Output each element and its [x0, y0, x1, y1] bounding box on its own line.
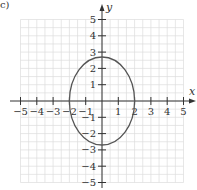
y-tick-label: −1 — [81, 112, 96, 123]
x-tick-label: −4 — [29, 106, 44, 117]
axes — [10, 4, 196, 188]
y-tick-label: −3 — [81, 144, 96, 155]
x-tick-label: 5 — [180, 106, 186, 117]
x-tick-label: −5 — [13, 106, 28, 117]
x-tick-label: 4 — [164, 106, 170, 117]
ellipse-graph: c) −5−4−3−2−11234554321−1−2−3−4−5 x y — [0, 0, 197, 190]
y-axis-arrow-icon — [100, 4, 105, 11]
y-tick-label: −5 — [81, 177, 96, 188]
x-tick-label: 3 — [148, 106, 154, 117]
y-tick-label: 3 — [90, 47, 96, 58]
y-axis-label: y — [105, 1, 113, 14]
y-tick-label: 5 — [90, 14, 96, 25]
x-tick-label: −3 — [46, 106, 61, 117]
y-tick-label: 2 — [90, 63, 96, 74]
y-tick-label: −4 — [81, 161, 96, 172]
y-tick-label: 1 — [90, 79, 96, 90]
x-axis-arrow-icon — [189, 99, 196, 104]
y-tick-label: 4 — [90, 30, 96, 41]
x-axis-label: x — [189, 85, 196, 98]
panel-label: c) — [0, 0, 10, 10]
x-tick-label: 1 — [115, 106, 121, 117]
